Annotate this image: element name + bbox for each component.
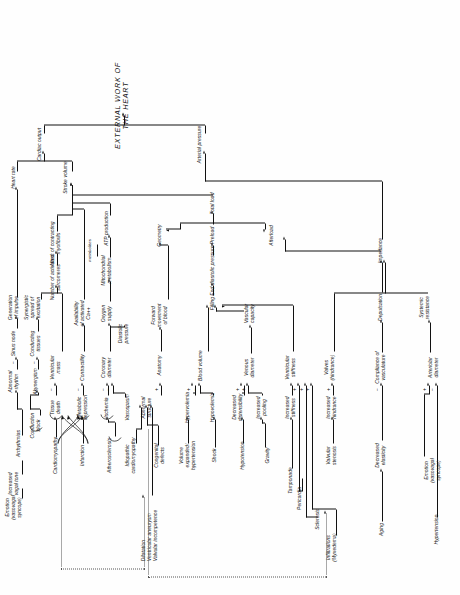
node-increased-vagal-tone: Increased vagal tone — [8, 471, 20, 495]
node-congenital-defects: Congenital defects — [154, 443, 166, 467]
node-forward-movement: Forward movement of blood — [151, 303, 169, 327]
sign-minus-sinus: − — [10, 361, 16, 364]
edge-conduction-akyn-v2 — [30, 394, 38, 395]
arrow-tissue-ventmass — [54, 382, 56, 385]
edge-coronary-oxygen — [110, 325, 111, 351]
arrow-hypotension-distensibility — [241, 416, 243, 419]
edge-myofibrils-stroke-h2 — [72, 185, 73, 215]
node-sclerosis: Sclerosis — [315, 509, 321, 530]
edge-incstiff-ventstiff — [292, 385, 293, 395]
arrow-impedance-arterial — [203, 150, 205, 153]
node-aging: Aging — [379, 522, 385, 535]
edge-totalload-stroke-v — [72, 194, 213, 195]
node-ventricular-stiffness: Ventricular stiffness — [285, 355, 297, 379]
hook-atherosclerosis-icon — [108, 435, 122, 444]
feedback-dotted-2-h — [61, 419, 62, 569]
node-depulsation: Depulsation — [378, 294, 384, 321]
edge-mito-atp — [110, 237, 111, 257]
edge-impedance-afterload-v — [285, 250, 381, 251]
edge-systemic-impedance-v — [385, 292, 428, 293]
edge-pericardia-stiffness — [299, 385, 300, 491]
arrow-vasospasm-coronary — [111, 382, 113, 385]
feedback-dotted-1-h — [148, 429, 149, 577]
edge-vasospasm-coronary-v — [113, 392, 125, 393]
arrow-volexp-hypervolemia — [186, 416, 188, 419]
node-tissue-death: Tissue death — [50, 400, 62, 415]
edge-emotion-vagal — [22, 488, 23, 498]
hook-ischemia-icon — [100, 413, 114, 422]
node-infarction: Infarction — [80, 444, 86, 465]
edge-hindrance-valves — [333, 385, 334, 395]
node-abnormal-rhythm: Abnormal rhythm — [8, 370, 20, 392]
arrow-feedback-dotted-1 — [324, 510, 326, 513]
edge-pooling-venous-stub — [262, 393, 263, 395]
arrow-sinus-generation — [15, 315, 17, 318]
edge-ischemia-coronary — [108, 385, 109, 395]
node-shock: Shock — [212, 448, 218, 462]
edge-emotion-arteriolar-h2 — [429, 385, 430, 394]
node-ventricular-mass: Ventricular mass — [50, 355, 62, 379]
arrow-congenital-abnormal — [145, 404, 147, 407]
arrow-sclerosis-stiffness — [304, 382, 306, 385]
edge-idiopathic-abnormal-h2 — [141, 407, 142, 429]
node-stroke-volume: Stroke volume — [63, 161, 69, 194]
node-emotion-vasovagal-top: Emotion (vasovagal syncope) — [424, 458, 442, 483]
edge-vasospasm-coronary-h — [113, 385, 114, 393]
edge-pooling-venous-h — [248, 385, 249, 393]
edge-edp-preload — [213, 245, 214, 255]
edge-infiltrations-sclerosis-v — [312, 508, 336, 509]
node-vascular-capacity: Vascular capacity — [244, 303, 256, 323]
edge-shock-hypovolemia — [215, 419, 216, 447]
node-preload: Preload — [210, 226, 216, 244]
hook-metabolic-icon — [76, 413, 90, 422]
arrow-sarcomeres-myofibrils — [55, 250, 57, 253]
edge-congenital-abnormal-v — [147, 424, 158, 425]
edge-congenital-abnormal-h2 — [147, 407, 148, 425]
node-afterload: Afterload — [269, 225, 275, 245]
edge-sclerosis-v — [306, 516, 318, 517]
arrow-forward-geometry — [159, 242, 161, 245]
arrow-arteriolar-systemic — [428, 319, 430, 322]
edge-hypertension-arteriolar — [437, 385, 438, 517]
edge-anatomy-forward — [161, 329, 162, 351]
edge-join-cardiac — [44, 153, 45, 161]
node-arterial-pressure: Arterial pressure — [197, 125, 203, 163]
arrow-aging-elasticity — [380, 468, 382, 471]
arrow-pericardia-stiffness — [297, 382, 299, 385]
edge-generation-heartrate — [17, 189, 18, 297]
arrow-ischemia-coronary — [106, 382, 108, 385]
node-valves-hindrance: Valves (hindrance) — [324, 354, 336, 380]
arrow-geometry-in — [166, 229, 169, 231]
arrow-gravity-pooling — [260, 416, 262, 419]
edge-hypotension-distensibility — [243, 419, 244, 443]
hook-conduction-block-icon — [29, 425, 43, 434]
edge-valves-impedance-v — [334, 292, 385, 293]
edge-afterload-branch — [265, 223, 266, 229]
node-hypertension-top: Hypertension — [434, 514, 440, 544]
edge-elasticity-compliance — [382, 385, 383, 440]
edge-sarcomeres-myofibrils — [57, 253, 58, 265]
edge-metabolites — [97, 244, 98, 256]
arrow-coronary-oxygen — [108, 322, 110, 325]
arrow-abnormal-sinus — [15, 356, 17, 359]
arrow-incstiff-ventstiff — [290, 382, 292, 385]
arrow-hindrance-valves — [331, 382, 333, 385]
node-increased-pooling: Increased pooling — [256, 396, 268, 418]
arrow-elasticity-compliance — [380, 382, 382, 385]
edge-congenital-abnormal-h — [158, 425, 159, 445]
edge-ca-stroke-h — [84, 209, 85, 299]
node-contractility: Contractility — [80, 354, 86, 381]
edge-infiltrations-sclerosis — [336, 509, 337, 535]
edge-emotion-arteriolar-h — [424, 394, 425, 456]
edge-sclerosis-stiffness — [306, 385, 307, 517]
edge-tissue-ventmass — [56, 385, 57, 395]
node-arteriolar-diameter: Arteriolar diameter — [428, 357, 440, 378]
sign-plus-venous-2: + — [234, 388, 240, 391]
edge-geometry-branch — [180, 223, 181, 229]
node-coronary-diameter: Coronary diameter — [101, 357, 113, 378]
edge-abnormal-anatomy — [161, 385, 162, 395]
arrow-vascap-filling — [214, 304, 216, 307]
arrow-edp-preload — [211, 242, 213, 245]
arrow-join-cardiac — [42, 150, 44, 153]
edge-forward-geometry — [168, 245, 169, 299]
